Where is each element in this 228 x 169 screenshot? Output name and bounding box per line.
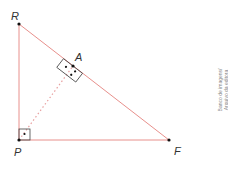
label-f: F xyxy=(174,146,181,157)
point-p xyxy=(17,138,20,141)
right-angle-dot-p xyxy=(23,133,25,135)
point-r xyxy=(17,22,20,25)
point-f xyxy=(167,138,170,141)
label-r: R xyxy=(11,11,19,22)
point-a xyxy=(71,64,74,67)
label-a: A xyxy=(75,52,82,63)
triangle-diagram xyxy=(0,0,228,169)
side-rf xyxy=(19,24,169,140)
label-p: P xyxy=(14,147,21,158)
image-credit: Banco de imagens/ Arquivo da editora xyxy=(217,55,228,125)
credit-line-2: Arquivo da editora xyxy=(223,55,228,125)
